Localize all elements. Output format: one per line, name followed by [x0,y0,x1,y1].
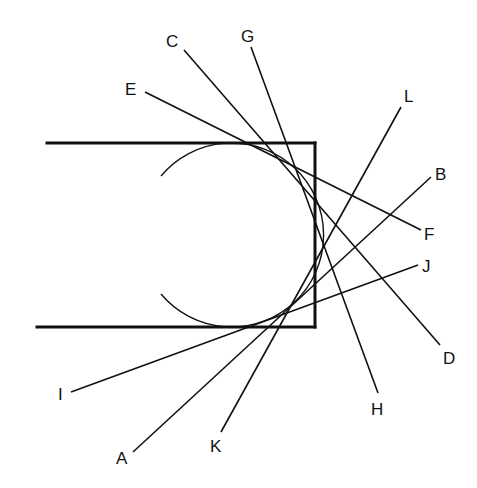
label-a: A [116,449,128,468]
tangent-diagram: CGELBFJDHIAK [0,0,477,488]
line-g-h [251,47,378,393]
label-d: D [443,349,455,368]
label-g: G [241,27,254,46]
label-l: L [404,87,413,106]
label-f: F [424,225,434,244]
label-h: H [371,400,383,419]
label-j: J [422,257,431,276]
channel-outline [37,143,315,327]
label-e: E [125,80,136,99]
label-i: I [58,385,63,404]
label-b: B [435,165,446,184]
label-k: K [210,437,222,456]
point-labels: CGELBFJDHIAK [58,27,455,468]
line-c-d [184,50,440,345]
line-e-f [145,92,421,230]
tangent-lines [71,47,440,452]
label-c: C [166,32,178,51]
